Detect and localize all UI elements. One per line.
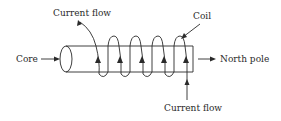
coil-lead-out <box>185 46 187 100</box>
current-flow-bottom-label: Current flow <box>164 103 222 113</box>
core-left-end <box>60 46 72 72</box>
current-arrow-icon <box>95 56 101 63</box>
current-arrow-icon <box>161 56 167 63</box>
core-label: Core <box>16 54 38 64</box>
coil-turn-1 <box>96 36 119 77</box>
coil-turn-3 <box>141 36 163 77</box>
coil-winding <box>80 22 189 100</box>
current-flow-top-label: Current flow <box>53 8 111 18</box>
north-pole-label: North pole <box>220 54 269 64</box>
north-pole-arrow-icon <box>210 57 216 62</box>
coil-turn-2 <box>119 36 141 77</box>
coil-pointer-line <box>183 24 200 37</box>
coil-lead-in <box>80 22 96 46</box>
current-arrow-icon <box>183 56 189 63</box>
current-flow-bottom-arrow-icon <box>185 79 190 85</box>
core-cylinder <box>60 46 193 72</box>
core-pointer-arrow-icon <box>54 57 60 62</box>
solenoid-diagram: Current flow Coil Core North pole Curren… <box>0 0 281 121</box>
coil-turn-4 <box>163 36 185 77</box>
current-arrow-icon <box>117 56 123 63</box>
coil-pointer-arrow-icon <box>181 33 187 39</box>
coil-label: Coil <box>193 11 211 21</box>
current-arrow-icon <box>139 56 145 63</box>
